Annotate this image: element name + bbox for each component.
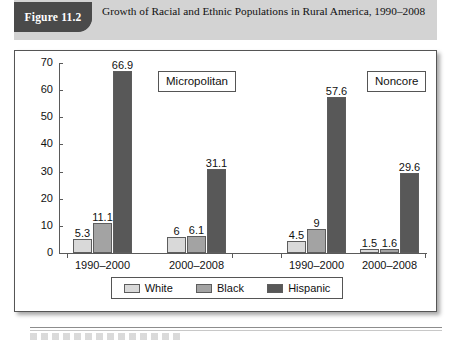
x-axis-tick-label: 2000–2008 (169, 259, 224, 271)
legend-item-hispanic: Hispanic (267, 282, 330, 294)
bar-hispanic: 29.6 (400, 173, 419, 253)
figure-caption-banner: Figure 11.2 Growth of Racial and Ethnic … (14, 0, 437, 40)
legend-swatch-white (124, 284, 140, 293)
bar-value-label: 6.1 (189, 224, 204, 236)
bar-black: 6.1 (187, 236, 206, 253)
y-axis-tick: 60 (15, 90, 61, 91)
footer-rule-bottom (30, 330, 442, 331)
bar-value-label: 4.5 (289, 229, 304, 241)
legend-label: Black (217, 282, 244, 294)
bar-value-label: 6 (173, 225, 179, 237)
bar-value-label: 29.6 (399, 161, 420, 173)
legend-label: White (145, 282, 173, 294)
bar-white: 6 (167, 237, 186, 253)
bar-white: 4.5 (287, 241, 306, 253)
legend-swatch-hispanic (267, 284, 283, 293)
figure-tag-label: Figure 11.2 (14, 2, 92, 32)
y-axis-tick: 40 (15, 144, 61, 145)
bar-group: 4.5957.6 (287, 63, 346, 253)
legend-item-black: Black (196, 282, 244, 294)
y-axis-tick-mark (59, 226, 63, 227)
chart-container: 010203040506070 5.311.166.966.131.14.595… (14, 50, 437, 312)
y-axis-tick: 0 (15, 253, 61, 254)
y-axis-tick-label: 60 (41, 83, 53, 95)
legend-item-white: White (124, 282, 173, 294)
x-axis-tick-label: 2000–2008 (362, 259, 417, 271)
bar-white: 1.5 (360, 249, 379, 253)
footer-rule-top (30, 327, 442, 328)
y-axis-tick-label: 40 (41, 137, 53, 149)
y-axis-tick-mark (59, 253, 63, 254)
bar-value-label: 66.9 (112, 59, 133, 71)
x-axis-tick-mark (67, 254, 68, 258)
figure-caption-text: Growth of Racial and Ethnic Populations … (102, 4, 432, 18)
bar-value-label: 9 (313, 217, 319, 229)
x-axis-tick-label: 1990–2000 (75, 259, 130, 271)
panel-title-micropolitan: Micropolitan (158, 71, 236, 92)
y-axis-tick-mark (59, 199, 63, 200)
y-axis-tick-mark (59, 63, 63, 64)
bar-hispanic: 57.6 (327, 97, 346, 253)
bar-black: 11.1 (93, 223, 112, 253)
y-axis-tick-label: 10 (41, 219, 53, 231)
legend-label: Hispanic (288, 282, 330, 294)
bar-hispanic: 31.1 (207, 169, 226, 253)
x-axis-tick-mark (425, 254, 426, 258)
bar-hispanic: 66.9 (113, 71, 132, 253)
y-axis-tick-label: 30 (41, 165, 53, 177)
bar-value-label: 11.1 (92, 211, 113, 223)
y-axis-tick-label: 20 (41, 192, 53, 204)
y-axis-tick: 20 (15, 199, 61, 200)
y-axis-tick-mark (59, 90, 63, 91)
y-axis-tick: 50 (15, 117, 61, 118)
y-axis-tick-label: 0 (47, 246, 53, 258)
bar-white: 5.3 (73, 239, 92, 253)
bar-value-label: 5.3 (75, 227, 90, 239)
bar-value-label: 1.5 (362, 237, 377, 249)
y-axis-tick-mark (59, 172, 63, 173)
bar-black: 1.6 (380, 249, 399, 253)
bar-group: 5.311.166.9 (73, 63, 132, 253)
bar-black: 9 (307, 229, 326, 253)
x-axis-line (59, 253, 427, 254)
y-axis-tick-mark (59, 144, 63, 145)
y-axis-tick-label: 70 (41, 56, 53, 68)
chart-legend: WhiteBlackHispanic (111, 277, 343, 299)
panel-title-noncore: Noncore (367, 71, 426, 92)
bar-value-label: 57.6 (326, 85, 347, 97)
y-axis-tick: 30 (15, 172, 61, 173)
y-axis-tick: 10 (15, 226, 61, 227)
footer-cropped-text (30, 333, 180, 340)
y-axis-tick-label: 50 (41, 110, 53, 122)
y-axis-tick: 70 (15, 63, 61, 64)
bar-value-label: 1.6 (382, 237, 397, 249)
x-axis-tick-label: 1990–2000 (289, 259, 344, 271)
x-axis-tick-mark (281, 254, 282, 258)
y-axis-tick-mark (59, 117, 63, 118)
bar-value-label: 31.1 (206, 157, 227, 169)
legend-swatch-black (196, 284, 212, 293)
x-axis-tick-mark (232, 254, 233, 258)
